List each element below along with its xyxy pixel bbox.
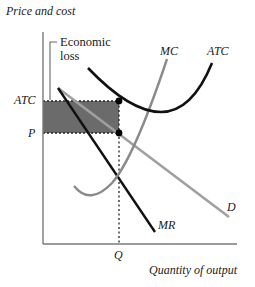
x-axis-label: Quantity of output (149, 263, 238, 277)
atc-curve-label: ATC (206, 44, 230, 58)
economic-loss-label-line2: loss (60, 49, 80, 63)
mc-label: MC (159, 44, 179, 58)
economic-loss-label-line1: Economic (60, 35, 111, 49)
demand-point (116, 130, 123, 137)
atc-point (116, 98, 123, 105)
atc-price-label: ATC (13, 93, 37, 107)
demand-label: D (226, 200, 236, 214)
demand-curve (58, 88, 229, 217)
monopoly-loss-diagram: Price and cost Economic loss MC ATC D MR… (0, 0, 255, 287)
mr-label: MR (157, 218, 176, 232)
q-label: Q (114, 248, 123, 262)
p-price-label: P (27, 126, 36, 140)
y-axis-label: Price and cost (5, 4, 76, 18)
economic-loss-bracket (50, 42, 57, 100)
